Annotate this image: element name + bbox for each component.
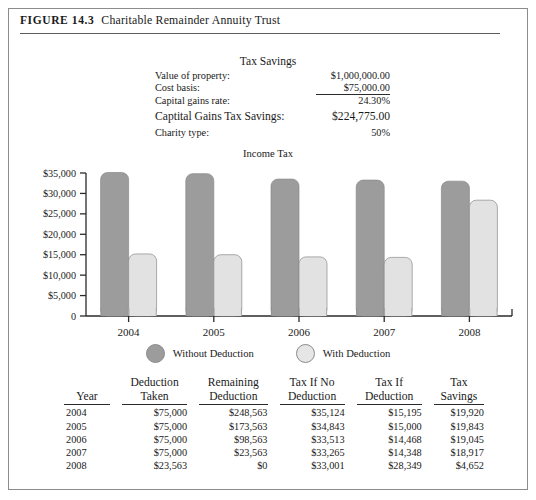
cell-year: 2007 <box>58 446 116 459</box>
column-header-remaining-deduction: Remaining Deduction <box>193 376 273 406</box>
cell-tax-if-no-deduction: $33,265 <box>274 446 351 459</box>
tax-savings-row: Charity type: 50% <box>155 125 390 139</box>
bar-2007-with-deduction <box>384 257 412 316</box>
y-axis-tick-label: $5,000 <box>48 290 76 301</box>
legend-label: With Deduction <box>323 348 391 359</box>
cell-year: 2006 <box>58 433 116 446</box>
bar-base-fill <box>356 308 384 316</box>
table-row: 2008$23,563$0$33,001$28,349$4,652 <box>58 459 490 472</box>
y-axis-tick-label: $35,000 <box>43 168 76 179</box>
bar-base-fill <box>101 308 129 316</box>
cell-remaining-deduction: $98,563 <box>193 433 273 446</box>
tax-savings-value: $1,000,000.00 <box>316 70 390 82</box>
cell-deduction-taken: $75,000 <box>116 406 193 419</box>
tax-savings-label: Value of property: <box>155 70 316 82</box>
chart-title: Income Tax <box>0 148 536 159</box>
chart-legend: Without Deduction With Deduction <box>0 344 536 363</box>
column-header-tax-if-no-deduction: Tax If No Deduction <box>274 376 351 406</box>
cell-tax-if-deduction: $28,349 <box>351 459 428 472</box>
tax-savings-value: 24.30% <box>316 94 390 107</box>
tax-savings-value: $224,775.00 <box>316 107 390 125</box>
cell-tax-if-no-deduction: $33,513 <box>274 433 351 446</box>
cell-remaining-deduction: $0 <box>193 459 273 472</box>
tax-savings-row: Value of property: $1,000,000.00 <box>155 70 390 82</box>
header-divider <box>20 33 500 34</box>
tax-savings-title: Tax Savings <box>0 55 536 67</box>
bar-base-fill <box>271 308 299 316</box>
bar-base-fill <box>299 308 327 316</box>
y-axis-tick-label: $25,000 <box>43 208 76 219</box>
bar-2005-without-deduction <box>186 174 214 316</box>
cell-tax-savings: $4,652 <box>428 459 490 472</box>
column-header-deduction-taken: Deduction Taken <box>116 376 193 406</box>
table-body: 2004$75,000$248,563$35,124$15,195$19,920… <box>58 406 490 472</box>
page-title: Charitable Remainder Annuity Trust <box>101 13 280 27</box>
cell-deduction-taken: $75,000 <box>116 420 193 433</box>
bar-2004-without-deduction <box>101 172 129 316</box>
legend-swatch-icon <box>146 344 165 363</box>
cell-tax-savings: $18,917 <box>428 446 490 459</box>
cell-tax-savings: $19,843 <box>428 420 490 433</box>
table-row: 2007$75,000$23,563$33,265$14,348$18,917 <box>58 446 490 459</box>
cell-tax-if-no-deduction: $33,001 <box>274 459 351 472</box>
cell-remaining-deduction: $248,563 <box>193 406 273 419</box>
cell-year: 2008 <box>58 459 116 472</box>
tax-savings-label: Charity type: <box>155 125 316 139</box>
bar-base-fill <box>129 308 157 316</box>
figure-number: FIGURE 14.3 <box>20 14 94 26</box>
figure-header: FIGURE 14.3Charitable Remainder Annuity … <box>20 13 500 28</box>
y-axis-tick-label: $15,000 <box>43 249 76 260</box>
bar-2007-without-deduction <box>356 180 384 316</box>
cell-tax-if-deduction: $15,195 <box>351 406 428 419</box>
tax-savings-row: Cost basis: $75,000.00 <box>155 82 390 94</box>
x-axis-tick-label: 2008 <box>458 326 481 338</box>
cell-remaining-deduction: $173,563 <box>193 420 273 433</box>
income-tax-bar-chart: 0$5,000$10,000$15,000$20,000$25,000$30,0… <box>0 160 536 340</box>
x-axis-tick-label: 2004 <box>118 326 141 338</box>
cell-deduction-taken: $23,563 <box>116 459 193 472</box>
y-axis-tick-label: $30,000 <box>43 188 76 199</box>
cell-year: 2004 <box>58 406 116 419</box>
bar-base-fill <box>186 308 214 316</box>
cell-tax-savings: $19,045 <box>428 433 490 446</box>
column-header-tax-if-deduction: Tax If Deduction <box>351 376 428 406</box>
cell-tax-savings: $19,920 <box>428 406 490 419</box>
bar-2008-without-deduction <box>441 181 469 316</box>
cell-remaining-deduction: $23,563 <box>193 446 273 459</box>
y-axis-tick-label: $10,000 <box>43 270 76 281</box>
figure-container: FIGURE 14.3Charitable Remainder Annuity … <box>0 0 536 500</box>
tax-savings-value: $75,000.00 <box>316 82 390 94</box>
tax-savings-label: Cost basis: <box>155 82 316 94</box>
cell-deduction-taken: $75,000 <box>116 446 193 459</box>
table-row: 2005$75,000$173,563$34,843$15,000$19,843 <box>58 420 490 433</box>
x-axis-tick-label: 2005 <box>203 326 226 338</box>
cell-tax-if-no-deduction: $34,843 <box>274 420 351 433</box>
y-axis-tick-label: $20,000 <box>43 229 76 240</box>
bar-base-fill <box>469 308 497 316</box>
table-header: Year Deduction Taken Remaining Deduction… <box>58 376 490 406</box>
bar-base-fill <box>384 308 412 316</box>
cell-tax-if-deduction: $14,348 <box>351 446 428 459</box>
chart-svg: 0$5,000$10,000$15,000$20,000$25,000$30,0… <box>0 160 536 340</box>
cell-year: 2005 <box>58 420 116 433</box>
schedule-table: Year Deduction Taken Remaining Deduction… <box>58 376 490 472</box>
legend-swatch-icon <box>296 344 315 363</box>
y-axis-tick-label: 0 <box>71 311 76 322</box>
legend-item-with-deduction: With Deduction <box>296 344 391 363</box>
cell-tax-if-no-deduction: $35,124 <box>274 406 351 419</box>
bar-2006-with-deduction <box>299 257 327 316</box>
table-header-row: Year Deduction Taken Remaining Deduction… <box>58 376 490 406</box>
cell-tax-if-deduction: $14,468 <box>351 433 428 446</box>
bar-2004-with-deduction <box>129 254 157 316</box>
x-axis-tick-label: 2006 <box>288 326 311 338</box>
x-axis-tick-label: 2007 <box>373 326 396 338</box>
tax-savings-label: Captital Gains Tax Savings: <box>155 107 316 125</box>
column-header-tax-savings: Tax Savings <box>428 376 490 406</box>
bar-2005-with-deduction <box>214 255 242 316</box>
tax-savings-row: Capital gains rate: 24.30% <box>155 94 390 107</box>
tax-savings-table: Value of property: $1,000,000.00 Cost ba… <box>155 70 390 139</box>
legend-item-without-deduction: Without Deduction <box>146 344 254 363</box>
column-header-year: Year <box>58 376 116 406</box>
bar-base-fill <box>441 308 469 316</box>
tax-savings-row-total: Captital Gains Tax Savings: $224,775.00 <box>155 107 390 125</box>
